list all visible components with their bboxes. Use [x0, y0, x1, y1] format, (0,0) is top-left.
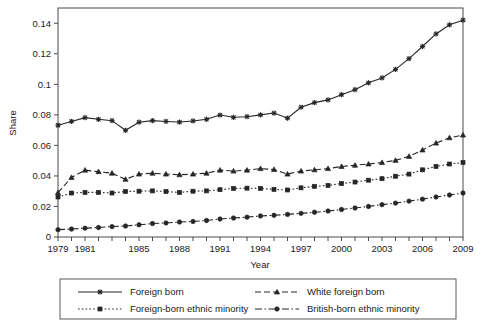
y-tick-label: 0.08 [33, 109, 52, 120]
legend-item-british-born-ethnic-minority[interactable]: British-born ethnic minority [255, 303, 420, 314]
x-tick-label: 1981 [74, 243, 95, 254]
x-tick-label: 2006 [412, 243, 433, 254]
plot-frame [58, 8, 463, 237]
y-axis-label: Share [7, 110, 18, 135]
legend: Foreign bornWhite foreign bornForeign-bo… [60, 279, 456, 319]
y-tick-label: 0 [46, 231, 51, 242]
y-tick-label: 0.12 [33, 48, 52, 59]
x-tick-label: 2003 [371, 243, 392, 254]
x-tick-label: 1994 [250, 243, 271, 254]
chart-container: 00.020.040.060.080.10.120.14 19791981198… [0, 0, 486, 324]
legend-item-white-foreign-born[interactable]: White foreign born [255, 286, 385, 297]
x-axis-label: Year [250, 259, 269, 270]
legend-label: Foreign born [130, 286, 184, 297]
x-tick-label: 1991 [209, 243, 230, 254]
x-tick-label: 1988 [169, 243, 190, 254]
x-tick-label: 2009 [452, 243, 473, 254]
y-tick-label: 0.14 [33, 18, 52, 29]
y-tick-label: 0.04 [33, 170, 52, 181]
x-tick-label: 1985 [128, 243, 149, 254]
x-axis-ticks: 1979198119851988199119941997200020032006… [47, 237, 473, 254]
x-tick-label: 1979 [47, 243, 68, 254]
share-by-group-line-chart: 00.020.040.060.080.10.120.14 19791981198… [0, 0, 486, 324]
y-tick-label: 0.02 [33, 201, 52, 212]
y-tick-label: 0.1 [38, 79, 51, 90]
series-foreign-born [55, 18, 465, 133]
x-tick-label: 1997 [290, 243, 311, 254]
series-lines [55, 18, 465, 232]
legend-item-foreign-born-ethnic-minority[interactable]: Foreign-born ethnic minority [78, 303, 249, 314]
legend-label: Foreign-born ethnic minority [130, 303, 249, 314]
legend-label: British-born ethnic minority [307, 303, 420, 314]
legend-item-foreign-born[interactable]: Foreign born [78, 286, 184, 297]
y-tick-label: 0.06 [33, 140, 52, 151]
y-axis-ticks: 00.020.040.060.080.10.120.14 [33, 18, 59, 243]
legend-label: White foreign born [307, 286, 385, 297]
series-white-foreign-born [55, 132, 465, 194]
x-tick-label: 2000 [331, 243, 352, 254]
series-british-born-ethnic-minority [56, 191, 465, 232]
